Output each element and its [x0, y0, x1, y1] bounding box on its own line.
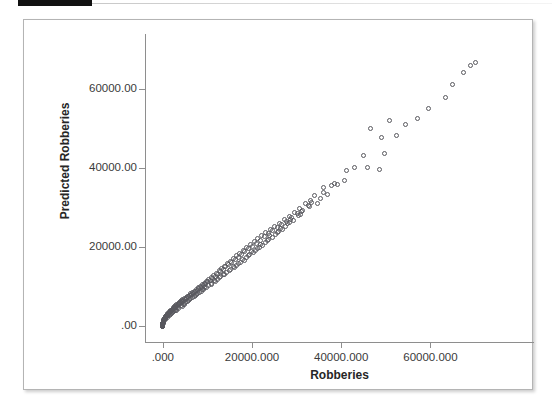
scatter-point: [173, 308, 178, 313]
y-axis-tick-label: 60000.00: [27, 82, 137, 94]
scatter-point: [461, 70, 466, 75]
scatter-point: [382, 151, 387, 156]
x-axis-tick: [163, 342, 164, 348]
scatter-point: [365, 165, 370, 170]
scatter-point: [473, 60, 478, 65]
scatter-point: [368, 126, 373, 131]
scatter-point: [244, 255, 249, 260]
scatter-point: [377, 167, 382, 172]
scatter-point: [199, 289, 204, 294]
scatter-point: [307, 204, 312, 209]
scatter-point: [318, 196, 323, 201]
scatter-point: [291, 218, 296, 223]
scatter-point: [344, 168, 349, 173]
scatter-point: [253, 248, 258, 253]
scatter-point: [403, 122, 408, 127]
scatter-point: [283, 224, 288, 229]
scatter-point: [468, 63, 473, 68]
scatter-point: [160, 324, 165, 329]
y-axis-title: Predicted Robberies: [58, 61, 72, 261]
top-marker-bar: [18, 0, 92, 6]
scatter-point: [224, 270, 229, 275]
scatter-point: [332, 181, 337, 186]
scatter-point: [185, 299, 190, 304]
x-axis-tick-label: 60000.000: [375, 351, 485, 363]
y-axis-tick-label: 20000.00: [27, 240, 137, 252]
scatter-point: [379, 135, 384, 140]
scatter-point: [394, 133, 399, 138]
x-axis-tick: [341, 342, 342, 348]
scatter-point: [168, 312, 173, 317]
scatter-point: [263, 240, 268, 245]
scatter-point: [342, 178, 347, 183]
chart-panel: .0020000.0040000.0060000.00 .00020000.00…: [23, 19, 533, 390]
x-axis-line: [145, 342, 534, 343]
scatter-point: [443, 95, 448, 100]
scatter-point: [192, 294, 197, 299]
scatter-point: [426, 106, 431, 111]
scatter-plot-area: [145, 34, 533, 342]
scatter-point: [352, 165, 357, 170]
scatter-point: [312, 193, 317, 198]
scatter-point: [387, 118, 392, 123]
top-divider-rule: [92, 3, 552, 4]
scatter-point: [273, 232, 278, 237]
scatter-point: [234, 263, 239, 268]
x-axis-title: Robberies: [145, 368, 534, 382]
scatter-point: [315, 201, 320, 206]
scatter-point: [361, 153, 366, 158]
scatter-point: [215, 277, 220, 282]
scatter-point: [415, 116, 420, 121]
x-axis-tick: [430, 342, 431, 348]
scatter-point: [450, 82, 455, 87]
scatter-point: [206, 283, 211, 288]
scatter-point: [298, 212, 303, 217]
x-axis-tick: [252, 342, 253, 348]
y-axis-tick-label: .00: [27, 319, 137, 331]
scatter-point: [163, 317, 168, 322]
scatter-point: [180, 304, 185, 309]
y-axis-tick-label: 40000.00: [27, 161, 137, 173]
